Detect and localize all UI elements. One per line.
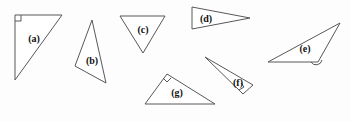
triangle-label-f: (f) (233, 77, 243, 88)
triangle-label-d: (d) (200, 13, 212, 24)
triangle-a (15, 15, 62, 80)
triangle-label-g: (g) (171, 87, 183, 98)
triangle-label-e: (e) (299, 43, 310, 54)
triangle-b (75, 20, 106, 83)
triangle-label-c: (c) (137, 24, 148, 35)
triangles-figure: (a)(b)(c)(d)(e)(f)(g) (0, 0, 351, 122)
triangle-label-b: (b) (86, 55, 98, 66)
triangle-f (205, 57, 253, 94)
triangles-canvas (0, 0, 351, 122)
triangle-label-a: (a) (28, 33, 40, 44)
triangle-c (120, 16, 165, 53)
